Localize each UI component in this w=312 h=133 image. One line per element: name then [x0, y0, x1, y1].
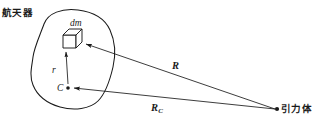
Rc-vector-label: RC	[151, 103, 163, 115]
figure-canvas: 航天器 dm r C R RC 引力体	[0, 0, 312, 133]
gravitational-body-point	[275, 107, 279, 111]
center-of-mass-label: C	[57, 84, 63, 94]
R-vector-label: R	[172, 61, 179, 72]
gravitational-body-label: 引力体	[281, 104, 312, 114]
spacecraft-label: 航天器	[2, 8, 33, 18]
r-vector-arrow	[66, 52, 68, 84]
mass-element-label: dm	[70, 19, 82, 29]
Rc-vector-subscript: C	[158, 107, 163, 115]
mass-element-cube	[63, 29, 82, 48]
center-of-mass-point	[66, 86, 70, 90]
Rc-vector-base: R	[151, 102, 158, 113]
r-vector-label: r	[52, 66, 56, 76]
